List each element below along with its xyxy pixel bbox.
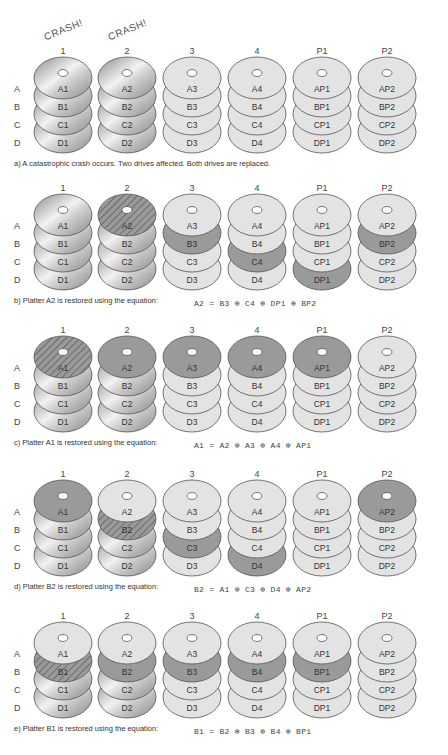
platter-a1: A1 <box>34 480 92 522</box>
column-label-2: 2 <box>107 611 147 621</box>
row-label-a: A <box>14 649 20 659</box>
platter-label: B2 <box>122 381 133 391</box>
column-label-1: 1 <box>43 46 83 56</box>
platter-label: D4 <box>252 275 263 285</box>
platter-label: BP2 <box>379 381 395 391</box>
spindle-hole-icon <box>58 349 68 356</box>
platter-a4: A4 <box>228 57 286 99</box>
platter-label: BP1 <box>314 239 330 249</box>
row-label-b: B <box>14 381 20 391</box>
crash-label: CRASH! <box>106 17 148 42</box>
platter-label: AP1 <box>314 84 330 94</box>
platter-label: D4 <box>252 138 263 148</box>
platter-label: D3 <box>187 417 198 427</box>
platter-ap1: AP1 <box>293 194 351 236</box>
platter-label: B3 <box>187 239 198 249</box>
platter-label: DP2 <box>379 275 396 285</box>
drive-stack-3: D3C3B3A3 <box>162 193 222 303</box>
platter-label: BP2 <box>379 525 395 535</box>
platter-label: AP2 <box>379 649 395 659</box>
drive-stack-2: D2C2B2A2 <box>97 335 157 445</box>
drive-stack-4: D4C4B4A4 <box>227 335 287 445</box>
platter-ap1: AP1 <box>293 480 351 522</box>
panel-c: 1234P1P2ABCDD1C1B1A1D2C2B2A2D3C3B3A3D4C4… <box>0 325 448 465</box>
platter-ap2: AP2 <box>358 622 416 664</box>
platter-label: A4 <box>252 507 263 517</box>
platter-label: AP1 <box>314 507 330 517</box>
panel-caption: a) A catastrophic crash occurs. Two driv… <box>14 159 270 168</box>
column-label-p2: P2 <box>367 611 407 621</box>
column-label-p1: P1 <box>302 469 342 479</box>
drive-stack-p2: DP2CP2BP2AP2 <box>357 621 417 731</box>
spindle-hole-icon <box>58 70 68 77</box>
row-label-d: D <box>14 138 21 148</box>
row-label-d: D <box>14 275 21 285</box>
row-label-d: D <box>14 417 21 427</box>
column-label-p1: P1 <box>302 46 342 56</box>
platter-label: DP2 <box>379 417 396 427</box>
drive-stack-2: D2C2B2A2 <box>97 193 157 303</box>
platter-label: A2 <box>122 507 133 517</box>
drive-stack-1: D1C1B1A1 <box>33 193 93 303</box>
platter-label: BP1 <box>314 381 330 391</box>
platter-label: C2 <box>122 543 133 553</box>
platter-ap1: AP1 <box>293 336 351 378</box>
platter-label: DP2 <box>379 138 396 148</box>
column-label-p2: P2 <box>367 46 407 56</box>
platter-label: A3 <box>187 363 198 373</box>
platter-label: C3 <box>187 120 198 130</box>
spindle-hole-icon <box>58 493 68 500</box>
drive-stack-p1: DP1CP1BP1AP1 <box>292 479 352 589</box>
spindle-hole-icon <box>187 207 197 214</box>
platter-label: C4 <box>252 543 263 553</box>
spindle-hole-icon <box>58 207 68 214</box>
drive-stack-4: D4C4B4A4 <box>227 56 287 166</box>
platter-label: C1 <box>58 120 69 130</box>
platter-label: A4 <box>252 221 263 231</box>
spindle-hole-icon <box>317 493 327 500</box>
platter-label: D4 <box>252 417 263 427</box>
platter-label: C4 <box>252 257 263 267</box>
drive-stack-p1: DP1CP1BP1AP1 <box>292 621 352 731</box>
platter-label: AP1 <box>314 649 330 659</box>
platter-label: A4 <box>252 649 263 659</box>
platter-a3: A3 <box>163 194 221 236</box>
platter-label: D4 <box>252 561 263 571</box>
platter-label: B3 <box>187 381 198 391</box>
column-label-3: 3 <box>172 611 212 621</box>
platter-label: A1 <box>58 649 69 659</box>
platter-a2: A2 <box>98 194 156 236</box>
platter-label: CP2 <box>379 685 396 695</box>
platter-label: A3 <box>187 84 198 94</box>
platter-label: D2 <box>122 417 133 427</box>
spindle-hole-icon <box>187 635 197 642</box>
column-label-1: 1 <box>43 183 83 193</box>
platter-label: A1 <box>58 84 69 94</box>
drive-stack-2: D2C2B2A2 <box>97 479 157 589</box>
platter-label: A2 <box>122 649 133 659</box>
platter-label: CP2 <box>379 543 396 553</box>
row-label-b: B <box>14 667 20 677</box>
drive-stack-p1: DP1CP1BP1AP1 <box>292 56 352 166</box>
platter-ap2: AP2 <box>358 194 416 236</box>
platter-label: AP1 <box>314 221 330 231</box>
platter-label: BP1 <box>314 667 330 677</box>
spindle-hole-icon <box>252 493 262 500</box>
column-label-1: 1 <box>43 611 83 621</box>
column-label-2: 2 <box>107 183 147 193</box>
platter-label: AP2 <box>379 363 395 373</box>
platter-label: D1 <box>58 703 69 713</box>
spindle-hole-icon <box>382 70 392 77</box>
panel-caption: b) Platter A2 is restored using the equa… <box>14 296 158 305</box>
platter-a2: A2 <box>98 336 156 378</box>
platter-a1: A1 <box>34 194 92 236</box>
platter-label: A3 <box>187 649 198 659</box>
platter-label: CP2 <box>379 399 396 409</box>
platter-label: DP2 <box>379 703 396 713</box>
platter-label: C3 <box>187 685 198 695</box>
spindle-hole-icon <box>317 349 327 356</box>
row-label-a: A <box>14 363 20 373</box>
platter-label: CP1 <box>314 543 331 553</box>
spindle-hole-icon <box>382 349 392 356</box>
xor-equation: B2 = A1 ⊕ C3 ⊕ D4 ⊕ AP2 <box>194 585 311 594</box>
